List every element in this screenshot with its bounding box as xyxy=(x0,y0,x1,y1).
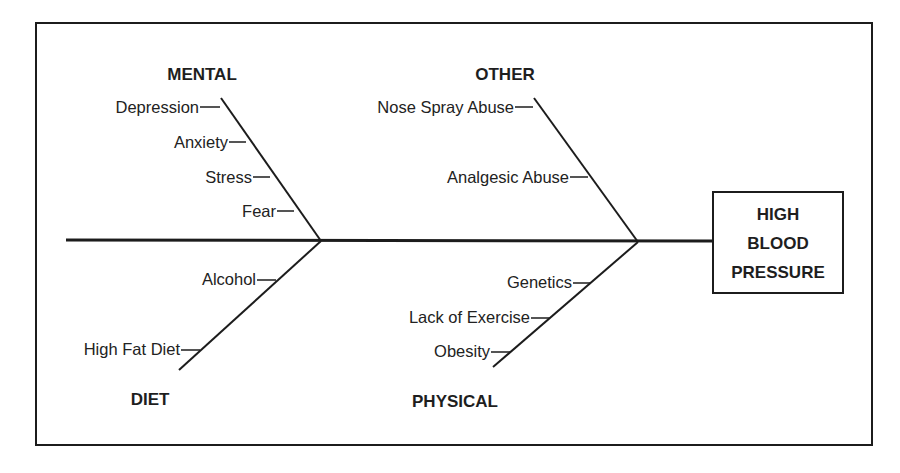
category-mental: MENTAL Depression Anxiety Stress Fear xyxy=(116,65,321,241)
cause-nose-spray-abuse: Nose Spray Abuse xyxy=(377,98,514,116)
cause-lack-of-exercise: Lack of Exercise xyxy=(409,308,530,326)
category-diet: DIET Alcohol High Fat Diet xyxy=(84,241,321,409)
category-label-physical: PHYSICAL xyxy=(412,392,498,411)
category-other: OTHER Nose Spray Abuse Analgesic Abuse xyxy=(377,65,638,242)
cause-anxiety: Anxiety xyxy=(174,133,229,151)
cause-genetics: Genetics xyxy=(507,273,572,291)
cause-depression: Depression xyxy=(116,98,199,116)
fishbone-diagram: HIGH BLOOD PRESSURE MENTAL Depression An… xyxy=(0,0,900,473)
category-label-mental: MENTAL xyxy=(167,65,237,84)
cause-obesity: Obesity xyxy=(434,342,491,360)
bone-physical xyxy=(493,242,638,367)
cause-high-fat-diet: High Fat Diet xyxy=(84,340,181,358)
category-label-diet: DIET xyxy=(131,390,170,409)
cause-alcohol: Alcohol xyxy=(202,270,256,288)
spine xyxy=(66,240,713,241)
category-physical: PHYSICAL Genetics Lack of Exercise Obesi… xyxy=(409,242,638,411)
category-label-other: OTHER xyxy=(475,65,535,84)
cause-stress: Stress xyxy=(205,168,252,186)
bone-diet xyxy=(179,241,321,370)
cause-fear: Fear xyxy=(242,202,276,220)
effect-label-line-3: PRESSURE xyxy=(731,263,825,282)
cause-analgesic-abuse: Analgesic Abuse xyxy=(447,168,569,186)
effect-label-line-2: BLOOD xyxy=(747,234,808,253)
effect-box: HIGH BLOOD PRESSURE xyxy=(713,192,843,293)
effect-label-line-1: HIGH xyxy=(757,205,800,224)
